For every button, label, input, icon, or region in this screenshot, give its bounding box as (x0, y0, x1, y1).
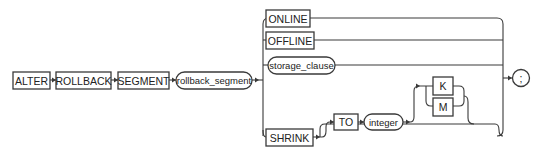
svg-text:ROLLBACK: ROLLBACK (55, 75, 111, 87)
svg-text:M: M (439, 101, 448, 113)
keyword-m: M (433, 98, 453, 116)
nonterminal-storage-clause: storage_clause (268, 57, 335, 74)
svg-text:K: K (439, 80, 446, 92)
svg-text:ALTER: ALTER (15, 75, 48, 87)
svg-text:rollback_segment: rollback_segment (177, 75, 252, 86)
svg-text:ONLINE: ONLINE (268, 13, 307, 25)
keyword-segment: SEGMENT (118, 72, 171, 89)
nonterminal-rollback-segment: rollback_segment (176, 72, 252, 89)
keyword-k: K (433, 77, 453, 95)
keyword-to: TO (334, 114, 358, 130)
svg-text:storage_clause: storage_clause (269, 60, 333, 71)
keyword-rollback: ROLLBACK (55, 72, 111, 89)
svg-text:OFFLINE: OFFLINE (268, 35, 312, 47)
railroad-diagram: ALTER ROLLBACK SEGMENT rollback_segment … (0, 0, 538, 159)
keyword-alter: ALTER (13, 72, 50, 89)
nonterminal-integer: integer (364, 114, 403, 130)
svg-text:;: ; (520, 72, 523, 84)
keyword-offline: OFFLINE (266, 32, 314, 49)
svg-text:integer: integer (369, 117, 398, 128)
svg-text:SHRINK: SHRINK (270, 132, 310, 144)
keyword-shrink: SHRINK (266, 129, 313, 146)
keyword-online: ONLINE (266, 10, 310, 27)
shrink-branch-lines (313, 84, 503, 140)
svg-text:TO: TO (339, 116, 353, 128)
svg-text:SEGMENT: SEGMENT (118, 75, 171, 87)
terminator-semicolon: ; (513, 70, 530, 87)
